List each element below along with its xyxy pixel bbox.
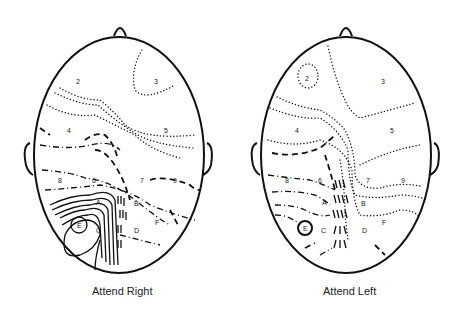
contour-dotted — [360, 145, 420, 165]
region-label-A: A — [322, 199, 327, 206]
contour-dotted — [328, 46, 415, 118]
hatch-marks — [333, 180, 348, 248]
caption-attend-left: Attend Left — [323, 285, 376, 297]
region-label-B: B — [361, 200, 366, 207]
contour-dashdot — [275, 205, 330, 216]
left-ear-outline — [252, 143, 260, 175]
region-label-5: 5 — [164, 127, 168, 134]
region-label-4: 4 — [295, 127, 299, 134]
region-label-E: E — [77, 222, 82, 229]
region-label-2: 2 — [305, 75, 309, 82]
contour-dashdot — [40, 143, 120, 150]
region-label-A: A — [96, 199, 101, 206]
caption-attend-right: Attend Right — [92, 285, 153, 297]
region-label-B: B — [134, 200, 139, 207]
contour-dotted — [55, 93, 195, 148]
contour-dashdot — [268, 175, 335, 190]
region-label-8: 8 — [58, 177, 62, 184]
region-label-3: 3 — [154, 78, 158, 85]
contour-dotted — [60, 88, 195, 136]
region-label-C: C — [321, 227, 326, 234]
contour-dashed — [375, 245, 385, 255]
region-label-6: 6 — [318, 177, 322, 184]
contour-dotted — [134, 50, 175, 95]
region-label-C: C — [96, 227, 101, 234]
contour-dashdot — [275, 215, 300, 225]
region-label-6: 6 — [92, 177, 96, 184]
contour-dashed — [325, 155, 335, 190]
contour-dashed — [272, 135, 335, 155]
region-label-9: 9 — [173, 177, 177, 184]
nose-outline — [340, 28, 352, 36]
left-ear-outline — [25, 143, 33, 175]
region-label-8: 8 — [285, 177, 289, 184]
contour-dashdot — [320, 248, 332, 255]
region-label-D: D — [362, 227, 367, 234]
contour-dashed — [40, 128, 50, 135]
contour-dashed — [305, 243, 315, 248]
region-label-4: 4 — [67, 127, 71, 134]
region-label-F: F — [382, 219, 386, 226]
region-label-9: 9 — [401, 177, 405, 184]
nose-outline — [114, 28, 126, 36]
region-label-F: F — [155, 219, 159, 226]
region-label-7: 7 — [366, 177, 370, 184]
contour-dashed — [85, 134, 118, 160]
contour-dotted — [277, 97, 420, 188]
region-label-5: 5 — [390, 127, 394, 134]
head-map-attend-left: 2 3 4 5 8 6 7 9 A B E C D F — [252, 28, 439, 273]
region-label-3: 3 — [381, 78, 385, 85]
region-label-D: D — [134, 227, 139, 234]
region-label-2: 2 — [76, 78, 80, 85]
head-outline — [34, 37, 204, 273]
region-label-7: 7 — [140, 177, 144, 184]
scalp-maps-figure: 2 3 4 5 8 6 7 9 A B E C D F — [0, 0, 462, 309]
head-map-attend-right: 2 3 4 5 8 6 7 9 A B E C D F — [25, 28, 212, 273]
hatch-marks — [118, 196, 126, 248]
contour-dashdot — [120, 235, 160, 245]
region-label-E: E — [303, 225, 308, 232]
